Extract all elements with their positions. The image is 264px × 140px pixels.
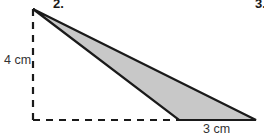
triangle-diagram [0, 0, 264, 140]
shaded-triangle [33, 9, 256, 120]
geometry-figure-canvas: 2. 3. 4 cm 3 cm [0, 0, 264, 140]
next-problem-number-label: 3. [255, 0, 264, 10]
base-measurement-label: 3 cm [203, 123, 230, 136]
problem-number-label: 2. [53, 0, 64, 10]
height-measurement-label: 4 cm [4, 54, 31, 67]
